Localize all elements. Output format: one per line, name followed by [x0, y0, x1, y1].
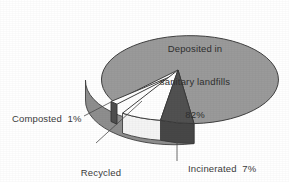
slice-label-incinerated: Incinerated 7% [188, 163, 256, 174]
slice-label-landfill-line2: sanitary landfills [150, 76, 240, 87]
slice-label-recycled: Recycled 10% [72, 145, 130, 182]
slice-label-landfill-line1: Deposited in [150, 43, 240, 54]
pie-chart-graphic [0, 0, 289, 182]
slice-side-composted [111, 102, 117, 125]
pie-chart-figure: Deposited in sanitary landfills 82% Comp… [0, 0, 289, 182]
slice-label-landfill-value: 82% [150, 109, 240, 120]
slice-label-recycled-name: Recycled [72, 167, 130, 178]
slice-label-landfill: Deposited in sanitary landfills 82% [150, 21, 240, 142]
slice-label-composted: Composted 1% [12, 113, 82, 124]
